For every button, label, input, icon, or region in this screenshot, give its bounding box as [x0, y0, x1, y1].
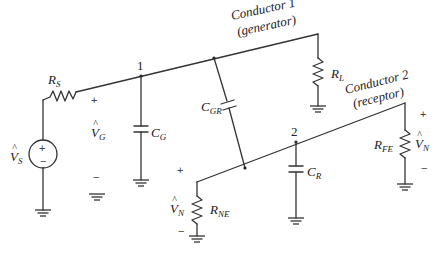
vfe-minus-sign: − — [421, 162, 427, 174]
ground-icon — [189, 236, 205, 242]
vne-plus-sign: + — [177, 164, 183, 176]
rne-label: RNE — [209, 202, 230, 219]
capacitor-cgr: CGR — [201, 56, 247, 169]
conductor-1-wire — [76, 34, 318, 92]
cr-label: CR — [307, 164, 322, 181]
ground-icon — [288, 218, 304, 224]
vg-plus-sign: + — [91, 94, 97, 106]
capacitor-cr: CR — [288, 142, 322, 224]
voltage-source-vs: + − VS ^ — [10, 100, 57, 216]
circuit-diagram: + − VS ^ RS Conductor 1 (generator) 1 + … — [0, 0, 442, 259]
node-2-label: 2 — [291, 124, 298, 139]
vfe-plus-sign: + — [420, 108, 426, 120]
vne-minus-sign: − — [178, 225, 184, 237]
vg-minus-sign: − — [93, 171, 99, 183]
resistor-rs: RS — [43, 72, 76, 101]
ground-icon — [397, 184, 413, 190]
ground-icon — [133, 180, 149, 186]
resistor-rl: RL — [310, 58, 344, 112]
node-1-label: 1 — [137, 58, 144, 73]
rs-label: RS — [47, 72, 61, 89]
rl-label: RL — [330, 66, 344, 83]
cgr-label: CGR — [201, 99, 222, 116]
resistor-rfe: RFE + VN ^ − — [373, 108, 430, 190]
source-minus-sign: − — [40, 155, 46, 167]
ground-icon — [35, 210, 51, 216]
ground-icon — [89, 194, 105, 200]
source-plus-sign: + — [39, 142, 45, 154]
cg-label: CG — [151, 125, 167, 142]
capacitor-cg: CG — [133, 76, 167, 186]
ground-icon — [310, 106, 326, 112]
rfe-label: RFE — [373, 137, 393, 154]
resistor-rne: RNE + VN ^ − — [170, 164, 230, 242]
